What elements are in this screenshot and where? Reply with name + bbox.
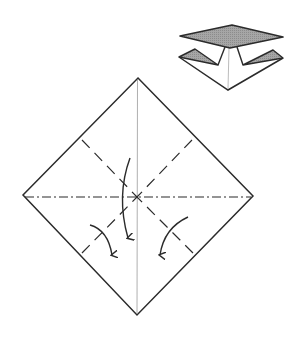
origami-diagram (0, 0, 292, 338)
main-paper (23, 78, 253, 315)
result-preview (179, 25, 283, 90)
